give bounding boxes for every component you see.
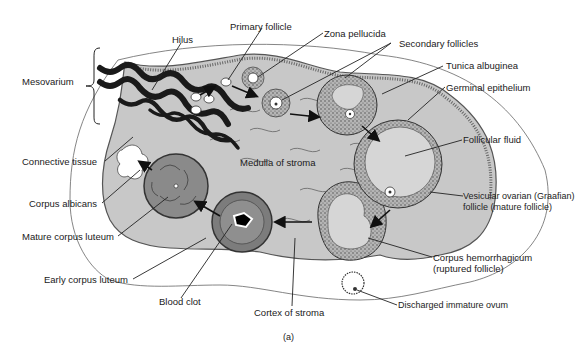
label-germinal-epithelium: Germinal epithelium [446, 82, 530, 93]
label-tunica-albuginea: Tunica albuginea [446, 60, 518, 71]
label-cortex-of-stroma: Cortex of stroma [254, 307, 324, 318]
label-mature-corpus-luteum: Mature corpus luteum [22, 231, 114, 242]
label-follicular-fluid: Follicular fluid [463, 134, 521, 145]
label-early-corpus-luteum: Early corpus luteum [44, 274, 128, 285]
label-vesicular-follicle-line2: follicle (mature follicle) [463, 202, 552, 213]
discharged-ovum [342, 272, 364, 294]
label-discharged-immature-ovum: Discharged immature ovum [398, 300, 508, 311]
label-corpus-hemorrhagicum-line1: Corpus hemorrhagicum [433, 252, 532, 263]
label-connective-tissue: Connective tissue [22, 156, 97, 167]
label-secondary-follicles: Secondary follicles [399, 38, 478, 49]
label-zona-pellucida: Zona pellucida [324, 28, 386, 39]
label-corpus-albicans: Corpus albicans [29, 198, 97, 209]
figure-caption: (a) [283, 332, 294, 342]
mesovarium-bracket [86, 48, 100, 124]
label-medulla-of-stroma: Medulla of stroma [240, 157, 316, 168]
ovary-diagram: Hilus Mesovarium Primary follicle Zona p… [0, 0, 586, 355]
label-primary-follicle: Primary follicle [230, 21, 292, 32]
label-corpus-hemorrhagicum-line2: (ruptured follicle) [433, 263, 504, 274]
label-mesovarium: Mesovarium [22, 76, 74, 87]
label-blood-clot: Blood clot [159, 296, 201, 307]
label-hilus: Hilus [172, 34, 193, 45]
label-vesicular-follicle-line1: Vesicular ovarian (Graafian) [463, 191, 575, 202]
